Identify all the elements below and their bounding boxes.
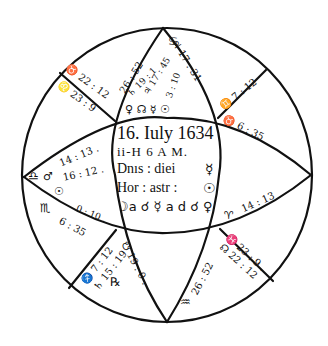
aquarius-icon: ♒ bbox=[180, 296, 191, 308]
scorpio-icon: ♏ bbox=[40, 202, 51, 214]
mars-icon: ♂ bbox=[43, 171, 53, 182]
fixed-star-icon: ☉ bbox=[54, 186, 64, 197]
horoscope-figure: 16. Iuly 1634 ii-H 6 A M. Dnıs : diei ☿ … bbox=[0, 0, 328, 346]
mercury-icon: ☿ bbox=[205, 162, 214, 176]
hour-ruler: Hor : astr : ☉ bbox=[117, 181, 219, 195]
sun-icon: ☉ bbox=[203, 181, 216, 195]
libra-icon: ♎ bbox=[28, 170, 39, 182]
planet-row-top: ♀ ☊ ☿ ☉ bbox=[125, 104, 170, 115]
chart-date: 16. Iuly 1634 bbox=[117, 124, 219, 142]
lord-of-day: Dnıs : diei ☿ bbox=[117, 162, 219, 176]
retrograde-icon: ℞ bbox=[110, 276, 121, 288]
aspect-line: ☽a ☌ ☿ a d ☌ ♀ bbox=[117, 200, 219, 213]
aries-icon: ♈ bbox=[224, 210, 234, 221]
chart-time: ii-H 6 A M. bbox=[117, 145, 219, 158]
